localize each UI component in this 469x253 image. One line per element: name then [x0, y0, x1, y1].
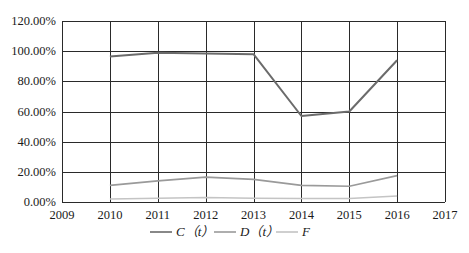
x-tick-label: 2015	[337, 208, 362, 222]
data-series	[110, 53, 397, 199]
x-tick-label: 2014	[289, 208, 315, 222]
series-line-1	[110, 53, 397, 116]
series-line-2	[110, 176, 397, 187]
x-tick-label: 2011	[145, 208, 170, 222]
y-tick-label: 40.00%	[17, 135, 56, 149]
y-axis-labels: 0.00%20.00%40.00%60.00%80.00%100.00%120.…	[11, 14, 56, 209]
y-tick-label: 120.00%	[11, 14, 56, 28]
y-tick-label: 20.00%	[17, 165, 56, 179]
legend: C（t）D（t）F	[150, 224, 311, 239]
legend-label: C（t）	[176, 224, 214, 239]
line-chart: 0.00%20.00%40.00%60.00%80.00%100.00%120.…	[0, 0, 469, 253]
x-tick-label: 2017	[433, 208, 458, 222]
grid-lines	[62, 21, 446, 203]
x-tick-label: 2013	[241, 208, 266, 222]
y-tick-label: 100.00%	[11, 44, 56, 58]
series-line-3	[110, 196, 397, 199]
y-tick-label: 80.00%	[17, 74, 56, 88]
y-tick-label: 60.00%	[17, 105, 56, 119]
x-axis-labels: 200920102011201220132014201520162017	[50, 208, 458, 222]
y-tick-label: 0.00%	[24, 195, 56, 209]
x-tick-label: 2016	[385, 208, 410, 222]
x-tick-label: 2012	[193, 208, 218, 222]
x-tick-label: 2010	[97, 208, 122, 222]
x-tick-label: 2009	[50, 208, 75, 222]
legend-label: D（t）	[239, 224, 279, 239]
legend-label: F	[301, 224, 311, 239]
